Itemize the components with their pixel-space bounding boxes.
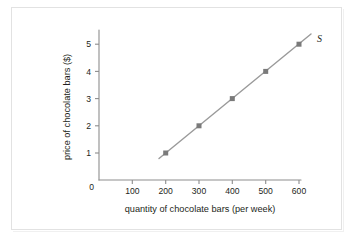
data-point-400-3: [230, 96, 235, 101]
series-label-S: S: [317, 33, 322, 44]
y-tick-label-3: 3: [86, 94, 91, 104]
supply-curve-line: [159, 34, 311, 159]
x-tick-label-300: 300: [192, 186, 207, 196]
x-axis-title: quantity of chocolate bars (per week): [125, 204, 276, 214]
x-tick-label-100: 100: [125, 186, 140, 196]
y-tick-label-2: 2: [86, 121, 91, 131]
chart-screenshot: 5 4 3 2 1 0 100 200 300 400 500 600: [0, 0, 355, 245]
x-tick-label-600: 600: [292, 186, 307, 196]
x-axis-ticks: [132, 180, 299, 184]
x-tick-label-400: 400: [225, 186, 240, 196]
series-S: [159, 34, 311, 159]
data-point-500-4: [263, 69, 268, 74]
x-axis-tick-labels: 100 200 300 400 500 600: [125, 186, 306, 196]
y-axis-tick-labels: 5 4 3 2 1 0: [86, 39, 94, 192]
x-tick-label-200: 200: [159, 186, 174, 196]
y-tick-label-5: 5: [86, 39, 91, 49]
x-tick-label-500: 500: [259, 186, 274, 196]
axes-group: [99, 30, 301, 180]
data-point-600-5: [297, 42, 302, 47]
y-tick-label-1: 1: [86, 148, 91, 158]
data-point-300-2: [197, 123, 202, 128]
y-tick-label-4: 4: [86, 67, 91, 77]
y-axis-title: price of chocolate bars ($): [62, 54, 72, 160]
origin-label-0: 0: [89, 182, 94, 192]
supply-curve-chart: 5 4 3 2 1 0 100 200 300 400 500 600: [0, 0, 355, 245]
data-point-200-1: [163, 151, 168, 156]
y-axis-ticks: [95, 44, 99, 153]
